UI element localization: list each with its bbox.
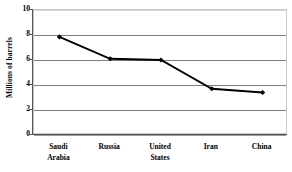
y-tick-mark-2 [29,109,33,110]
y-tick-label-8: 8 [14,30,30,38]
x-tick-label-line2: Arabia [26,152,90,163]
y-axis-tick-labels: 1086420 [14,9,30,134]
data-point-china [260,90,265,95]
y-axis-line [32,9,33,135]
y-axis-title-text: Millions of barrels [5,37,14,98]
gridline-0 [34,135,286,136]
y-tick-mark-4 [29,84,33,85]
y-tick-label-6: 6 [14,55,30,63]
x-tick-label-line2: States [128,152,192,163]
y-tick-mark-10 [29,9,33,10]
y-tick-mark-8 [29,34,33,35]
series-line [59,37,262,93]
line-chart: Millions of barrels 1086420 SaudiArabiaR… [0,0,292,172]
y-tick-mark-6 [29,59,33,60]
data-point-saudi-arabia [57,34,62,39]
series-oil-production [34,10,288,135]
y-tick-label-4: 4 [14,80,30,88]
data-point-russia [108,56,113,61]
y-tick-label-10: 10 [14,5,30,13]
y-tick-label-0: 0 [14,130,30,138]
x-axis-tick-labels: SaudiArabiaRussiaUnitedStatesIranChina [33,141,287,172]
x-tick-label-line1: China [230,141,292,152]
x-axis-line [33,134,287,135]
plot-area [33,9,287,134]
y-tick-label-2: 2 [14,105,30,113]
x-tick-label-china: China [230,141,292,152]
y-tick-mark-0 [29,134,33,135]
